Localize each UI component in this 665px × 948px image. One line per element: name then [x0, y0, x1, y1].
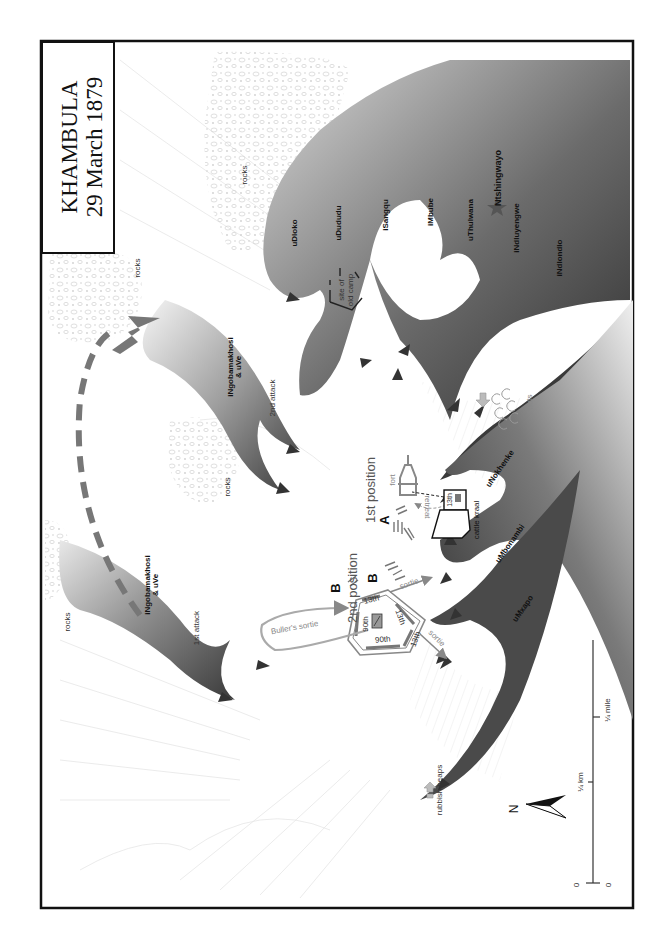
first-position-label: 1st position — [363, 457, 378, 523]
regiment-label: iNdluyengwe — [512, 203, 521, 253]
rubbish-heaps-label: rubbish heaps — [435, 765, 444, 815]
rocks-label: rocks — [63, 612, 72, 631]
map-date: 29 March 1879 — [82, 77, 107, 218]
regiment-label: uThulwana — [466, 199, 475, 241]
scale-mile-label: ¼ mile — [603, 698, 612, 722]
old-camp-label: site of — [337, 279, 346, 301]
kraal-unit-label: 13th — [446, 493, 453, 507]
rocks-label: rocks — [133, 258, 142, 277]
regiment-label: uDududu — [334, 205, 343, 240]
regiment-label: iNdlondlo — [555, 239, 564, 276]
scale-zero-right: 0 — [604, 882, 613, 887]
position-a-marker: A — [377, 515, 392, 525]
laager-unit-label: 90th — [375, 634, 391, 644]
commander-label: Ntshingwayo — [493, 150, 503, 207]
regiment-label: uDloko — [290, 219, 299, 246]
position-b-marker: B — [365, 573, 380, 582]
right-horn-label-2: & uVe — [234, 355, 243, 378]
rocks-label: rocks — [223, 477, 232, 496]
cattle-kraal-label: cattle kraal — [472, 500, 481, 539]
fort-label: fort — [388, 473, 397, 485]
rocks-label: rocks — [240, 165, 249, 184]
scale-zero-left: 0 — [572, 882, 581, 887]
kraal-flag — [455, 494, 461, 502]
laager-unit-label: 90th — [361, 616, 370, 632]
retreat-label: retreat — [423, 495, 432, 519]
battle-map: N 0 0 ¼ km ¼ mile KHAMBULA 29 March 1879… — [0, 0, 665, 948]
huts-label: huts — [525, 394, 534, 409]
scale-km-label: ¼ km — [576, 772, 585, 792]
regiment-label: iSangqu — [381, 199, 390, 231]
regiment-label: iMbube — [426, 197, 435, 226]
map-title: KHAMBULA — [57, 80, 82, 213]
second-position-label: 2nd position — [345, 553, 360, 623]
right-horn-label-2: & uVe — [151, 573, 160, 596]
compass-label: N — [507, 805, 521, 814]
old-camp-label: old camp — [346, 273, 355, 306]
attack-2-label: 2nd attack — [268, 379, 277, 417]
position-b-marker: B — [328, 583, 343, 592]
attack-1-label: 1st attack — [192, 610, 201, 645]
